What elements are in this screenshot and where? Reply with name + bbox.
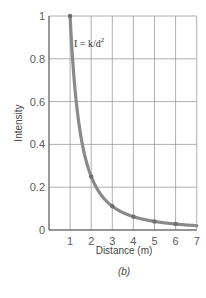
x-tick-label: 2 (88, 235, 94, 247)
figure-caption: (b) (118, 266, 130, 277)
equation-annotation: I = k/d2 (74, 36, 105, 49)
data-point-marker (110, 204, 114, 208)
y-tick-label: 0.6 (30, 96, 45, 108)
y-tick-label: 1 (39, 10, 45, 22)
annotation-main: I = k/d (74, 38, 101, 49)
data-point-marker (173, 222, 177, 226)
data-point-marker (131, 214, 135, 218)
x-tick-label: 6 (173, 235, 179, 247)
tick-labels: 123456700.20.40.60.81 (30, 10, 200, 247)
data-point-marker (89, 174, 93, 178)
x-tick-label: 5 (151, 235, 157, 247)
annotation-exponent: 2 (101, 36, 105, 44)
y-tick-label: 0 (39, 224, 45, 236)
y-tick-label: 0.4 (30, 138, 45, 150)
x-axis-label: Distance (m) (96, 245, 153, 256)
x-tick-label: 7 (194, 235, 200, 247)
data-point-marker (68, 14, 72, 18)
y-axis-label: Intensity (13, 104, 24, 141)
y-tick-label: 0.2 (30, 181, 45, 193)
y-tick-label: 0.8 (30, 53, 45, 65)
data-point-marker (152, 219, 156, 223)
inverse-square-chart: 123456700.20.40.60.81 I = k/d2 Distance … (0, 0, 206, 298)
x-tick-label: 1 (67, 235, 73, 247)
